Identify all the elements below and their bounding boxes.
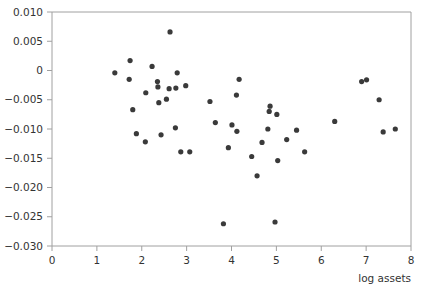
- x-axis-title: log assets: [358, 272, 411, 284]
- y-tick-label: −0.005: [4, 93, 43, 105]
- data-point: [377, 97, 382, 102]
- data-point: [234, 129, 239, 134]
- y-tick-label: −0.025: [4, 210, 43, 222]
- x-tick-label: 3: [183, 254, 190, 266]
- x-tick-label: 4: [228, 254, 235, 266]
- data-point: [187, 149, 192, 154]
- data-point: [149, 64, 154, 69]
- data-point: [249, 154, 254, 159]
- data-point: [155, 84, 160, 89]
- data-point: [183, 83, 188, 88]
- data-point: [229, 122, 234, 127]
- data-point: [332, 119, 337, 124]
- y-tick-label: −0.030: [4, 240, 43, 252]
- data-point: [267, 109, 272, 114]
- data-point: [134, 131, 139, 136]
- x-tick-label: 0: [49, 254, 56, 266]
- y-tick-label: 0.010: [13, 6, 43, 18]
- y-tick-label: −0.015: [4, 152, 43, 164]
- data-point: [226, 145, 231, 150]
- x-tick-label: 8: [408, 254, 415, 266]
- data-point: [275, 158, 280, 163]
- data-point: [213, 120, 218, 125]
- data-point: [302, 149, 307, 154]
- data-point: [259, 140, 264, 145]
- x-tick-label: 5: [273, 254, 280, 266]
- data-point: [127, 77, 132, 82]
- data-point: [359, 79, 364, 84]
- data-point: [221, 221, 226, 226]
- y-tick-label: −0.020: [4, 181, 43, 193]
- y-axis: 0.0100.0050−0.005−0.010−0.015−0.020−0.02…: [4, 6, 52, 252]
- data-point: [173, 85, 178, 90]
- y-tick-label: 0.005: [13, 35, 43, 47]
- data-point: [164, 97, 169, 102]
- data-point: [167, 86, 172, 91]
- data-point: [294, 128, 299, 133]
- data-point: [381, 129, 386, 134]
- data-point: [130, 107, 135, 112]
- data-point: [175, 70, 180, 75]
- data-point: [265, 126, 270, 131]
- data-point: [167, 29, 172, 34]
- x-tick-label: 1: [94, 254, 101, 266]
- x-tick-label: 7: [363, 254, 370, 266]
- data-point: [207, 99, 212, 104]
- x-tick-label: 6: [318, 254, 325, 266]
- x-tick-label: 2: [138, 254, 145, 266]
- data-points: [112, 29, 398, 226]
- scatter-chart: 0.0100.0050−0.005−0.010−0.015−0.020−0.02…: [0, 0, 422, 291]
- data-point: [364, 77, 369, 82]
- data-point: [143, 139, 148, 144]
- data-point: [234, 92, 239, 97]
- data-point: [178, 149, 183, 154]
- data-point: [284, 137, 289, 142]
- y-tick-label: −0.010: [4, 123, 43, 135]
- data-point: [267, 104, 272, 109]
- data-point: [143, 90, 148, 95]
- x-axis: 012345678: [49, 246, 415, 266]
- data-point: [393, 126, 398, 131]
- y-tick-label: 0: [36, 64, 43, 76]
- data-point: [274, 112, 279, 117]
- data-point: [173, 125, 178, 130]
- data-point: [254, 173, 259, 178]
- data-point: [156, 100, 161, 105]
- data-point: [237, 77, 242, 82]
- data-point: [155, 79, 160, 84]
- data-point: [272, 219, 277, 224]
- data-point: [158, 132, 163, 137]
- data-point: [112, 70, 117, 75]
- plot-frame: [52, 12, 411, 246]
- data-point: [127, 58, 132, 63]
